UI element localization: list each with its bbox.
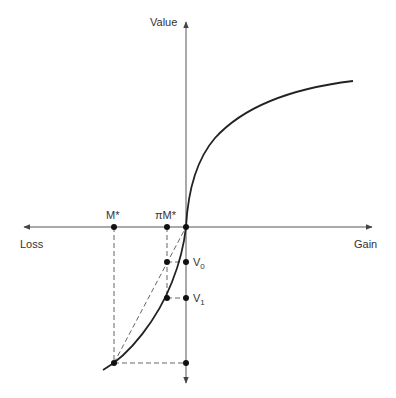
- value-function-diagram: Value Gain Loss M* πM* V0 V1: [0, 0, 396, 398]
- value-curve: [103, 81, 353, 370]
- m-star-label: M*: [106, 209, 120, 221]
- origin-dot: [183, 224, 189, 230]
- loss-label: Loss: [20, 238, 44, 250]
- v1-axis-dot: [183, 295, 189, 301]
- gain-label: Gain: [354, 238, 377, 250]
- v0-axis-dot: [183, 259, 189, 265]
- pi-m-star-dot: [164, 224, 170, 230]
- pi-m-star-label: πM*: [155, 209, 177, 221]
- axis-bottom-dot: [183, 360, 189, 366]
- v0-label: V0: [193, 256, 205, 271]
- v0-curve-dot: [164, 259, 170, 265]
- v1-label: V1: [193, 292, 205, 307]
- v1-curve-dot: [164, 295, 170, 301]
- curve-bottom-dot: [111, 360, 117, 366]
- y-axis-label: Value: [150, 16, 177, 28]
- dashed-guides: [114, 227, 186, 363]
- m-star-dot: [111, 224, 117, 230]
